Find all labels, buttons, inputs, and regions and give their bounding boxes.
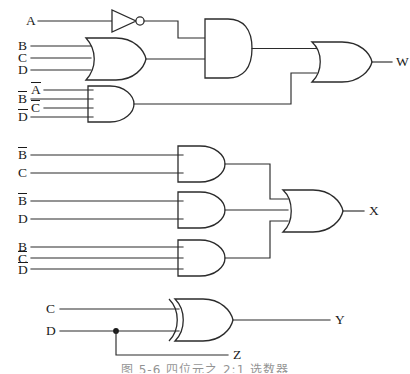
not-gate-a — [112, 10, 136, 32]
overbar-b: B — [18, 91, 27, 106]
input-label-a-bar: A — [31, 82, 41, 97]
wire-and-x3-to-or-x — [225, 221, 288, 258]
overbar-d: D — [18, 109, 28, 124]
not-gate-bubble-icon — [136, 17, 144, 25]
wire-notA-to-and-top — [144, 21, 205, 38]
input-label-x1-b-bar: B — [18, 147, 27, 162]
input-label-d: D — [18, 63, 28, 77]
or-gate-w — [312, 42, 372, 82]
or-gate-x — [283, 190, 343, 232]
and-gate-x3 — [178, 240, 225, 276]
overbar-b: B — [18, 147, 27, 162]
and-gate-nabcd — [88, 86, 134, 122]
circuit-svg — [0, 0, 410, 374]
wire-and-x1-to-or-x — [225, 164, 288, 199]
overbar-a: A — [31, 82, 41, 97]
overbar-c: C — [31, 100, 40, 115]
and-gate-top — [205, 19, 252, 78]
input-label-x3-d-bar: D — [18, 262, 28, 277]
logic-circuit-figure: A B C D A B C D W B C B D B C D X C D Y … — [0, 0, 410, 374]
input-label-d-bar: D — [18, 109, 28, 124]
input-label-b-bar: B — [18, 91, 27, 106]
output-label-y: Y — [335, 313, 345, 327]
or-gate-bcd — [86, 38, 146, 80]
and-gate-x1 — [178, 146, 225, 182]
output-label-w: W — [396, 55, 409, 69]
figure-caption: 图 5-6 四位元之 2:1 选数器 — [0, 360, 410, 373]
input-label-x2-d: D — [18, 212, 28, 226]
input-label-y-c: C — [46, 302, 55, 316]
input-label-a: A — [26, 14, 36, 28]
input-label-x2-b-bar: B — [18, 193, 27, 208]
input-label-c-bar: C — [31, 100, 40, 115]
xor-gate-y — [175, 299, 233, 341]
input-label-y-d: D — [46, 324, 56, 338]
overbar-d: D — [18, 262, 28, 277]
and-gate-x2 — [178, 192, 225, 228]
xor-gate-extra-arc-icon — [169, 299, 177, 341]
input-label-x1-c: C — [18, 166, 27, 180]
output-label-x: X — [369, 204, 379, 218]
overbar-b: B — [18, 193, 27, 208]
